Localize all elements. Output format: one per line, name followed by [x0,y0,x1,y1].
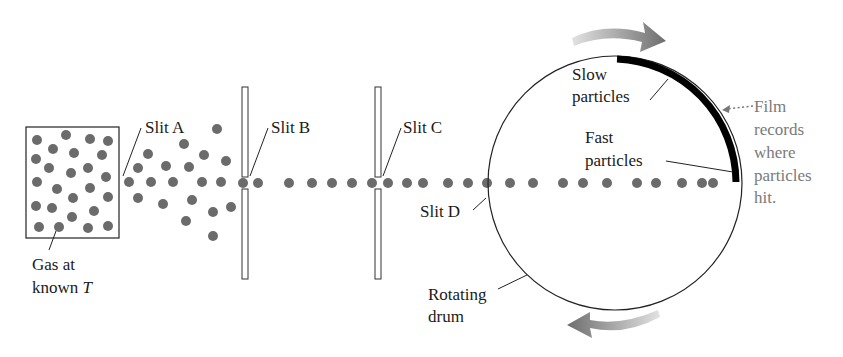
spreading-particles [124,124,236,241]
particle [68,193,78,203]
film-pointer-arrowhead-icon [722,105,730,113]
label-drum-line2: drum [428,307,464,326]
particle [31,154,41,164]
leader-slow [650,79,668,100]
label-slit-d: Slit D [420,202,460,221]
particle [418,178,428,188]
particle [31,201,41,211]
particle [158,199,168,209]
leader-gas [49,231,56,250]
particle [83,223,93,233]
particle [307,178,317,188]
particle [161,161,171,171]
particle [253,178,263,188]
particle [69,148,79,158]
apparatus-diagram: Slit A Slit B Slit C Slit D Gas at known… [0,0,843,357]
label-gas-line1: Gas at [32,255,75,274]
particle [44,163,54,173]
rotation-arrow-bottom-icon [567,310,660,338]
particle [32,177,42,187]
label-gas-line2: known T [32,278,94,297]
particle [528,178,538,188]
particle [124,177,134,187]
particle [238,178,248,188]
particle [208,231,218,241]
particle [578,178,588,188]
particle [67,212,77,222]
label-film-line3: where [754,143,796,162]
label-slit-b: Slit B [271,118,310,137]
particle [347,178,357,188]
particle [146,177,156,187]
particle [103,136,113,146]
label-fast-line2: particles [585,151,643,170]
label-fast-line1: Fast [585,128,614,147]
rotation-arrow-top-icon [572,22,666,52]
particle [34,222,44,232]
gas-particles [31,130,113,233]
particle [184,162,194,172]
particle [558,178,568,188]
particle [187,195,197,205]
particle [327,178,337,188]
particle [402,178,412,188]
particle [85,183,95,193]
particle [103,192,113,202]
particle [443,178,453,188]
particle [66,168,76,178]
particle-beam [238,178,718,188]
leader-drum [498,275,527,289]
label-slit-a: Slit A [145,118,185,137]
particle [143,149,153,159]
leader-film [727,106,753,109]
leader-fast [666,161,733,172]
particle [133,193,143,203]
particle [602,178,612,188]
particle [284,178,294,188]
leader-slit-d [473,198,486,210]
particle [83,163,93,173]
particle [101,172,111,182]
particle [52,184,62,194]
label-slit-c: Slit C [403,118,442,137]
particle [697,178,707,188]
leader-slit-c [383,128,401,176]
particle [47,203,57,213]
particle [212,124,222,134]
particle [708,178,718,188]
particle [85,134,95,144]
particle [168,177,178,187]
particle [179,139,189,149]
label-slow-line1: Slow [572,65,608,84]
label-drum-line1: Rotating [428,285,487,304]
particle [32,135,42,145]
particle [221,156,231,166]
particle [48,144,58,154]
particle [197,177,207,187]
particle [367,178,377,188]
particle [677,178,687,188]
particle [463,178,473,188]
particle [181,216,191,226]
particle [482,178,492,188]
label-film-line2: records [754,120,804,139]
label-film-line5: hit. [754,188,776,207]
particle [103,221,113,231]
particle [133,163,143,173]
particle [199,150,209,160]
leader-slit-b [250,128,268,176]
label-gas-temperature-var: T [83,278,94,297]
particle [226,202,236,212]
particle [651,178,661,188]
particle [383,178,393,188]
label-film-line1: Film [754,97,786,116]
particle [632,178,642,188]
label-film-line4: particles [754,166,812,185]
particle [505,178,515,188]
particle [61,130,71,140]
label-slow-line2: particles [572,87,630,106]
label-gas-known: known [32,278,83,297]
particle [89,206,99,216]
particle [54,222,64,232]
particle [216,177,226,187]
